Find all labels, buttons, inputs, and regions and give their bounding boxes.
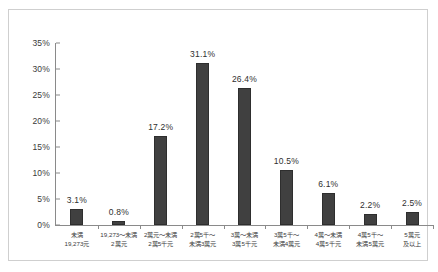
x-axis-tick-mark xyxy=(265,225,266,229)
bar xyxy=(238,88,251,225)
y-axis-tick-label: 35% xyxy=(32,38,56,48)
x-axis-tick-mark xyxy=(98,225,99,229)
x-axis-tick-mark xyxy=(307,225,308,229)
bar xyxy=(70,209,83,225)
bar-value-label: 0.8% xyxy=(109,207,129,217)
bar-value-label: 10.5% xyxy=(274,156,299,166)
y-axis-tick-mark xyxy=(56,225,60,226)
y-axis-tick-mark xyxy=(56,173,60,174)
chart-figure: 0%5%10%15%20%25%30%35% 3.1%0.8%17.2%31.1… xyxy=(0,0,438,272)
bar-value-label: 6.1% xyxy=(318,179,338,189)
plot-area: 0%5%10%15%20%25%30%35% 3.1%0.8%17.2%31.1… xyxy=(55,43,433,226)
x-axis-category-label-line: 5萬元 xyxy=(383,231,438,240)
bar-value-label: 26.4% xyxy=(232,74,257,84)
bar-value-label: 31.1% xyxy=(190,49,215,59)
y-axis-tick-label: 0% xyxy=(37,220,56,230)
y-axis-tick-mark xyxy=(56,147,60,148)
bar-value-label: 2.2% xyxy=(360,200,380,210)
y-axis-tick-mark xyxy=(56,95,60,96)
y-axis-tick-label: 30% xyxy=(32,64,56,74)
x-axis-tick-mark xyxy=(391,225,392,229)
chart-frame: 0%5%10%15%20%25%30%35% 3.1%0.8%17.2%31.1… xyxy=(8,9,428,261)
x-axis-category-label-line: 及以上 xyxy=(383,240,438,249)
x-axis-tick-mark xyxy=(433,225,434,229)
y-axis-tick-mark xyxy=(56,199,60,200)
x-axis-tick-mark xyxy=(224,225,225,229)
bar xyxy=(322,193,335,225)
bar xyxy=(112,221,125,225)
bar xyxy=(196,63,209,225)
x-axis-tick-mark xyxy=(349,225,350,229)
bar-value-label: 17.2% xyxy=(148,122,173,132)
y-axis-tick-label: 20% xyxy=(32,116,56,126)
x-axis-category-label: 5萬元及以上 xyxy=(383,231,438,248)
bar xyxy=(154,136,167,225)
bar xyxy=(280,170,293,225)
y-axis-tick-mark xyxy=(56,69,60,70)
y-axis-tick-mark xyxy=(56,121,60,122)
y-axis-tick-mark xyxy=(56,43,60,44)
bar-value-label: 2.5% xyxy=(402,198,422,208)
bar xyxy=(406,212,419,225)
bar xyxy=(364,214,377,225)
x-axis-tick-mark xyxy=(140,225,141,229)
y-axis-tick-label: 10% xyxy=(32,168,56,178)
bar-value-label: 3.1% xyxy=(67,195,87,205)
y-axis-tick-label: 15% xyxy=(32,142,56,152)
y-axis-tick-label: 25% xyxy=(32,90,56,100)
x-axis-tick-mark xyxy=(182,225,183,229)
y-axis-tick-label: 5% xyxy=(37,194,56,204)
